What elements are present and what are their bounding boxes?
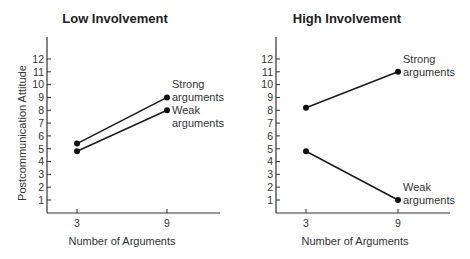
chart-panel-low-involvement: Low Involvement12345678910111239Number o… — [16, 11, 224, 247]
y-tick-label: 3 — [267, 168, 273, 180]
series-annotation-line2: arguments — [403, 194, 455, 206]
x-tick-label: 3 — [303, 217, 309, 229]
series-annotation-line1: Weak — [403, 181, 431, 193]
y-tick-label: 12 — [32, 53, 44, 65]
series-weak-arguments: Weakarguments — [303, 148, 455, 206]
y-tick-label: 4 — [267, 155, 273, 167]
series-weak-arguments: Weakarguments — [74, 104, 224, 154]
y-tick-label: 10 — [261, 78, 273, 90]
y-tick-label: 8 — [38, 104, 44, 116]
x-tick-label: 9 — [164, 217, 170, 229]
data-point — [303, 148, 309, 154]
series-annotation-line2: arguments — [172, 117, 224, 129]
series-strong-arguments: Strongarguments — [74, 78, 224, 146]
data-point — [74, 148, 80, 154]
series-annotation-line1: Strong — [172, 78, 204, 90]
y-tick-label: 9 — [267, 91, 273, 103]
x-tick-label: 3 — [74, 217, 80, 229]
chart-title: Low Involvement — [62, 11, 168, 26]
y-axis-label: Postcommunication Attitude — [16, 65, 28, 201]
series-line — [77, 97, 167, 143]
data-point — [303, 105, 309, 111]
series-strong-arguments: Strongarguments — [303, 53, 455, 111]
data-point — [164, 94, 170, 100]
chart-title: High Involvement — [293, 11, 402, 26]
y-tick-label: 9 — [38, 91, 44, 103]
data-point — [395, 197, 401, 203]
y-tick-label: 2 — [38, 181, 44, 193]
series-annotation-line2: arguments — [403, 66, 455, 78]
y-tick-label: 1 — [267, 194, 273, 206]
y-tick-label: 8 — [267, 104, 273, 116]
data-point — [164, 107, 170, 113]
y-tick-label: 5 — [38, 143, 44, 155]
y-tick-label: 7 — [267, 117, 273, 129]
x-axis-label: Number of Arguments — [302, 235, 409, 247]
y-tick-label: 10 — [32, 78, 44, 90]
y-tick-label: 3 — [38, 168, 44, 180]
y-tick-label: 6 — [38, 130, 44, 142]
chart-figure: Low Involvement12345678910111239Number o… — [0, 0, 470, 259]
y-tick-label: 11 — [33, 66, 44, 78]
y-tick-label: 5 — [267, 143, 273, 155]
y-tick-label: 12 — [261, 53, 273, 65]
series-line — [77, 110, 167, 151]
x-axis-label: Number of Arguments — [69, 235, 176, 247]
series-annotation-line1: Weak — [172, 104, 200, 116]
chart-panel-high-involvement: High Involvement12345678910111239Number … — [261, 11, 455, 247]
y-tick-label: 11 — [262, 66, 273, 78]
series-line — [306, 151, 398, 200]
y-tick-label: 1 — [38, 194, 44, 206]
data-point — [74, 141, 80, 147]
series-annotation-line1: Strong — [403, 53, 435, 65]
y-tick-label: 4 — [38, 155, 44, 167]
series-annotation-line2: arguments — [172, 91, 224, 103]
x-tick-label: 9 — [395, 217, 401, 229]
y-tick-label: 7 — [38, 117, 44, 129]
series-line — [306, 72, 398, 108]
y-tick-label: 2 — [267, 181, 273, 193]
y-tick-label: 6 — [267, 130, 273, 142]
data-point — [395, 69, 401, 75]
